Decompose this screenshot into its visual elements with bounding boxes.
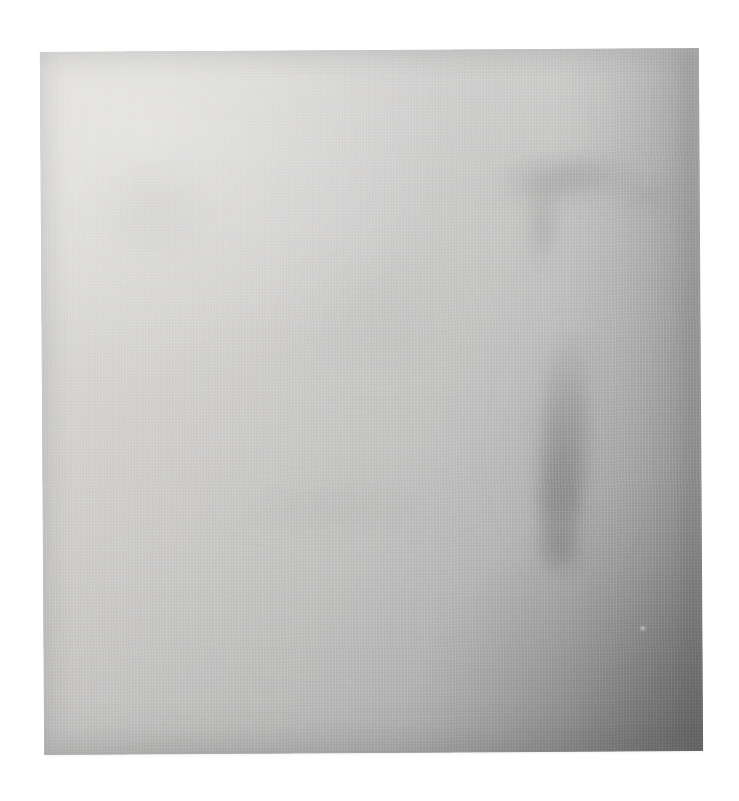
sheet-vertical-tone <box>40 48 703 755</box>
weave-texture <box>40 48 703 755</box>
vertical-streak-tail <box>532 513 600 591</box>
tee-shaped-smudge-hook <box>599 172 698 221</box>
sheet-base-tone <box>40 48 703 755</box>
horizontal-band-mark <box>172 476 503 539</box>
vertical-streak-mark <box>535 326 591 578</box>
centre-blotch-mark <box>277 235 478 406</box>
vertical-streak-halo <box>493 298 645 609</box>
tee-shaped-smudge-stem <box>523 168 563 297</box>
highlight-bloom <box>40 48 703 755</box>
fiber-noise-texture <box>40 48 703 755</box>
left-blotch-mark <box>74 135 235 286</box>
textured-sheet <box>40 48 703 755</box>
tee-shaped-smudge-bar <box>469 146 662 212</box>
image-canvas: Photograph of a blank, lightly soiled wo… <box>0 0 739 801</box>
edge-vignette <box>40 48 703 755</box>
light-speck-mark <box>640 626 645 630</box>
right-edge-wash <box>560 48 703 752</box>
corner-shadow <box>40 48 703 755</box>
